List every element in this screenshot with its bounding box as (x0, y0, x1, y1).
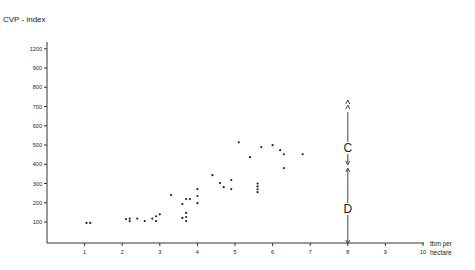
data-point (230, 179, 232, 181)
data-point (144, 220, 146, 222)
data-point (185, 198, 187, 200)
data-point (238, 141, 240, 143)
x-tick-label: 8 (346, 249, 349, 255)
annotations: CD (343, 100, 353, 244)
annotation-label: D (343, 202, 352, 216)
data-point (256, 185, 258, 187)
x-tick-label: 2 (121, 249, 124, 255)
data-point (170, 194, 172, 196)
data-point (85, 222, 87, 224)
data-point (223, 186, 225, 188)
data-point (181, 217, 183, 219)
data-point (155, 220, 157, 222)
data-point (279, 149, 281, 151)
data-point (249, 156, 251, 158)
data-point (196, 202, 198, 204)
y-tick-label: 600 (33, 123, 42, 129)
annotation-label: C (343, 141, 352, 155)
data-point (283, 167, 285, 169)
x-tick-label: 3 (158, 249, 161, 255)
data-point (302, 153, 304, 155)
y-tick-label: 400 (33, 161, 42, 167)
data-point (185, 216, 187, 218)
x-tick-label: 6 (271, 249, 274, 255)
data-point (125, 218, 127, 220)
y-tick-label: 300 (33, 181, 42, 187)
data-point (256, 188, 258, 190)
data-point (211, 174, 213, 176)
scatter-chart: CVP - index 1002003004005006007008009001… (0, 0, 475, 270)
y-tick-label: 1200 (30, 46, 42, 52)
data-point (89, 222, 91, 224)
double-chevron-up-icon (346, 100, 350, 109)
data-points (85, 141, 303, 224)
data-point (196, 188, 198, 190)
y-tick-label: 900 (33, 65, 42, 71)
x-tick-label: 5 (233, 249, 236, 255)
y-tick-label: 700 (33, 104, 42, 110)
y-ticks: 1002003004005006007008009001200 (30, 46, 47, 225)
x-ticks: 12345678910 (83, 243, 426, 255)
x-tick-label: 7 (309, 249, 312, 255)
data-point (256, 191, 258, 193)
data-point (185, 220, 187, 222)
x-tick-label: 9 (384, 249, 387, 255)
x-axis-label-line2: hectare (430, 249, 452, 256)
data-point (219, 182, 221, 184)
data-point (196, 195, 198, 197)
x-axis-label-line1: tbm per (430, 240, 453, 248)
y-axis-label: CVP - index (3, 15, 46, 24)
data-point (155, 215, 157, 217)
x-tick-label: 10 (420, 249, 426, 255)
y-tick-label: 200 (33, 200, 42, 206)
data-point (283, 153, 285, 155)
axes (47, 42, 424, 243)
data-point (256, 182, 258, 184)
x-tick-label: 4 (196, 249, 199, 255)
data-point (129, 217, 131, 219)
data-point (260, 146, 262, 148)
data-point (272, 144, 274, 146)
data-point (230, 188, 232, 190)
data-point (185, 212, 187, 214)
y-tick-label: 500 (33, 142, 42, 148)
data-point (159, 213, 161, 215)
data-point (129, 220, 131, 222)
x-tick-label: 1 (83, 249, 86, 255)
data-point (151, 217, 153, 219)
data-point (181, 203, 183, 205)
data-point (136, 217, 138, 219)
y-tick-label: 100 (33, 219, 42, 225)
data-point (189, 198, 191, 200)
y-tick-label: 800 (33, 84, 42, 90)
